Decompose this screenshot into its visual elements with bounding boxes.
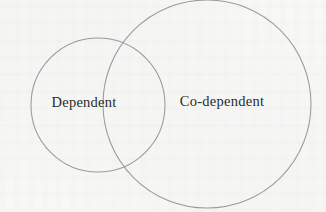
venn-diagram-canvas: Dependent Co-dependent xyxy=(0,0,326,212)
venn-label-dependent: Dependent xyxy=(51,94,116,110)
venn-label-co-dependent: Co-dependent xyxy=(180,93,264,109)
venn-diagram-figure: Dependent Co-dependent xyxy=(0,0,326,212)
